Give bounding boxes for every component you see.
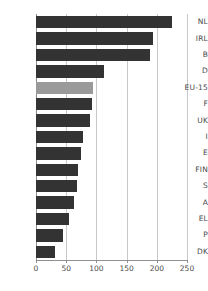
x-tick-label-50: 50 [61,265,71,273]
x-tick-label-0: 0 [34,265,39,273]
tick-mark-0 [36,260,37,263]
category-label-nl: NL [175,18,208,26]
category-label-d: D [175,67,208,75]
bar-row [36,164,187,177]
category-label-irl: IRL [175,35,208,43]
bar-p [36,229,63,242]
bar-row [36,65,187,78]
bar-row [36,49,187,62]
bar-nl [36,16,172,29]
bar-row [36,82,187,95]
bar-row [36,114,187,127]
bar-a [36,196,74,209]
category-label-dk: DK [175,248,208,256]
x-tick-label-150: 150 [119,265,133,273]
category-label-fin: FIN [175,166,208,174]
bar-fin [36,164,78,177]
bar-eu-15 [36,82,93,95]
bar-el [36,213,69,226]
bar-chart: NLIRLBDEU-15FUKIEFINSAELPDK 050100150200… [0,0,208,291]
bar-e [36,147,81,160]
tick-mark-200 [157,260,158,263]
x-axis-line [36,260,188,261]
bar-row [36,98,187,111]
bar-i [36,131,83,144]
category-label-i: I [175,133,208,141]
x-tick-label-250: 250 [180,265,194,273]
x-tick-label-200: 200 [150,265,164,273]
bar-dk [36,246,55,259]
category-label-e: E [175,149,208,157]
category-label-s: S [175,182,208,190]
category-label-p: P [175,231,208,239]
bar-row [36,213,187,226]
bar-d [36,65,104,78]
bar-row [36,196,187,209]
category-label-f: F [175,100,208,108]
category-label-eu-15: EU-15 [175,84,208,92]
tick-mark-50 [66,260,67,263]
x-tick-label-100: 100 [89,265,103,273]
bar-row [36,180,187,193]
bar-row [36,229,187,242]
bar-uk [36,114,90,127]
bar-s [36,180,77,193]
category-label-el: EL [175,215,208,223]
bar-row [36,32,187,45]
bar-row [36,16,187,29]
bar-irl [36,32,153,45]
category-label-a: A [175,199,208,207]
bar-row [36,246,187,259]
plot-area [36,14,187,260]
category-label-b: B [175,51,208,59]
tick-mark-100 [96,260,97,263]
bar-row [36,147,187,160]
category-label-uk: UK [175,117,208,125]
bar-b [36,49,150,62]
tick-mark-150 [127,260,128,263]
tick-mark-250 [187,260,188,263]
bar-f [36,98,92,111]
bar-row [36,131,187,144]
